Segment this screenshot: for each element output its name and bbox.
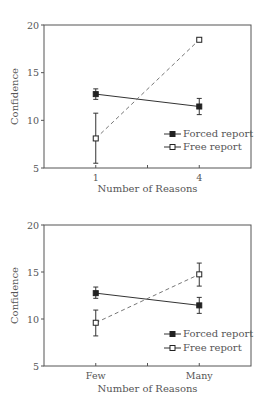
- series-forced-report: [93, 287, 202, 313]
- data-point: [197, 272, 202, 277]
- legend-label: Forced report: [183, 128, 253, 139]
- y-tick-label: 15: [27, 67, 39, 78]
- data-point: [93, 92, 98, 97]
- x-tick-label: 4: [196, 172, 202, 183]
- data-point: [197, 303, 202, 308]
- legend-item: Free report: [164, 342, 242, 353]
- legend-item: Forced report: [164, 328, 253, 339]
- y-tick-label: 5: [33, 361, 39, 372]
- chart-figure: 510152014Number of ReasonsConfidenceForc…: [0, 0, 265, 414]
- legend-label: Free report: [183, 141, 242, 152]
- data-point: [93, 291, 98, 296]
- x-axis-label: Number of Reasons: [98, 183, 198, 194]
- legend-marker: [170, 132, 175, 137]
- series-line: [96, 293, 200, 305]
- series-line: [96, 94, 200, 106]
- series-line: [96, 274, 200, 322]
- data-point: [197, 37, 202, 42]
- x-tick-label: 1: [93, 172, 99, 183]
- x-axis-label: Number of Reasons: [98, 383, 198, 394]
- data-point: [93, 136, 98, 141]
- legend-item: Free report: [164, 141, 242, 152]
- series-forced-report: [93, 89, 202, 115]
- series-line: [96, 40, 200, 139]
- chart-panel-2: 5101520FewManyNumber of ReasonsConfidenc…: [9, 220, 253, 395]
- y-tick-label: 5: [33, 163, 39, 174]
- data-point: [197, 104, 202, 109]
- chart-panel-1: 510152014Number of ReasonsConfidenceForc…: [9, 20, 253, 195]
- y-tick-label: 10: [27, 314, 39, 325]
- y-tick-label: 10: [27, 115, 39, 126]
- y-tick-label: 20: [27, 220, 39, 231]
- y-tick-label: 20: [27, 20, 39, 31]
- x-tick-label: Few: [86, 370, 106, 381]
- legend-label: Forced report: [183, 328, 253, 339]
- x-tick-label: Many: [186, 370, 214, 381]
- legend-label: Free report: [183, 342, 242, 353]
- y-axis-label: Confidence: [9, 68, 20, 125]
- data-point: [93, 320, 98, 325]
- legend-marker: [170, 332, 175, 337]
- legend-marker: [170, 346, 175, 351]
- legend-marker: [170, 145, 175, 150]
- y-axis-label: Confidence: [9, 267, 20, 324]
- y-tick-label: 15: [27, 267, 39, 278]
- legend-item: Forced report: [164, 128, 253, 139]
